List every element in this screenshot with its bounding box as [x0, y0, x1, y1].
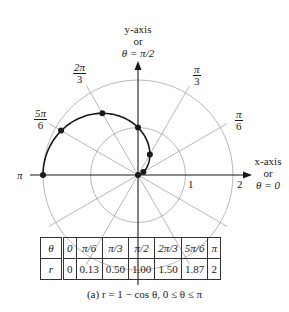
- y-axis-label-line3: θ = π/2: [118, 47, 158, 59]
- table-cell-r: 1.87: [181, 259, 208, 280]
- data-point: [135, 125, 141, 131]
- table-cell-theta: π: [208, 238, 221, 259]
- table-cell-r: 0: [63, 259, 77, 280]
- circle-label-2: 2: [237, 178, 243, 190]
- figure-caption: (a) r = 1 − cos θ, 0 ≤ θ ≤ π: [0, 288, 289, 300]
- table-cell-theta: 2π/3: [155, 238, 182, 259]
- y-axis-label-line1: y-axis: [118, 23, 158, 35]
- table-cell-r: 2: [208, 259, 221, 280]
- table-cell-r: 0.50: [102, 259, 128, 280]
- table-cell-r: 0.13: [76, 259, 102, 280]
- table-cell-r: 1.00: [129, 259, 155, 280]
- table-cell-theta: π/6: [76, 238, 102, 259]
- data-points: [40, 110, 153, 178]
- table-cell-theta: π/3: [102, 238, 128, 259]
- data-point: [135, 172, 141, 178]
- data-point: [58, 128, 64, 134]
- data-point: [40, 172, 46, 178]
- table-cell-theta: π/2: [129, 238, 155, 259]
- ray-label-2pi-3: 2π 3: [73, 62, 86, 85]
- data-point: [140, 169, 146, 175]
- y-axis-label: y-axis or θ = π/2: [118, 23, 158, 59]
- ray-label-5pi-6: 5π 6: [34, 108, 47, 131]
- table-cell-theta: 0: [63, 238, 77, 259]
- table-header-r: r: [41, 259, 63, 280]
- data-point: [99, 110, 105, 116]
- circle-label-1: 1: [188, 178, 194, 190]
- ray-label-pi-3: π 3: [193, 64, 201, 87]
- table-row-r: r 00.130.501.001.501.872: [41, 259, 221, 280]
- values-table: θ 0π/6π/3π/22π/35π/6π r 00.130.501.001.5…: [40, 237, 221, 280]
- pi-label: π: [17, 169, 23, 181]
- x-axis-label: x-axis or θ = 0: [248, 155, 288, 191]
- x-axis-label-line3: θ = 0: [248, 179, 288, 191]
- x-axis-label-line2: or: [248, 167, 288, 179]
- table-cell-theta: 5π/6: [181, 238, 208, 259]
- data-point: [147, 151, 153, 157]
- y-axis-arrow: [135, 61, 142, 70]
- y-axis-label-line2: or: [118, 35, 158, 47]
- table-row-theta: θ 0π/6π/3π/22π/35π/6π: [41, 238, 221, 259]
- x-axis-label-line1: x-axis: [248, 155, 288, 167]
- table-cell-r: 1.50: [155, 259, 182, 280]
- table-header-theta: θ: [41, 238, 63, 259]
- ray-label-pi-6: π 6: [235, 109, 243, 132]
